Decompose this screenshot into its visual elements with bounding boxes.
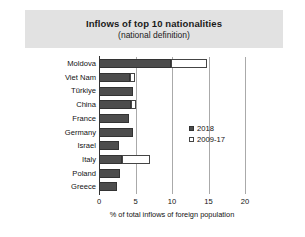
bar-segment-2018 [99,182,117,191]
chart-subtitle: (national definition) [118,30,190,40]
category-label: Viet Nam [65,71,96,85]
bar-segment-2018 [99,87,133,96]
category-label: Greece [71,180,96,194]
x-tick-label: 5 [133,197,137,206]
gridline [245,57,246,194]
bar-segment-2018 [99,155,122,164]
bar-segment-2009-17 [130,73,135,82]
legend-label-2009-17: 2009-17 [197,135,225,144]
category-label: Poland [72,167,96,181]
bar-row [99,98,245,112]
bar-segment-2009-17 [171,59,207,68]
x-axis-title: % of total inflows of foreign population [99,210,245,219]
bar-row [99,71,245,85]
category-label: France [72,112,96,126]
category-axis-labels: MoldovaViet NamTürkiyeChinaFranceGermany… [38,57,96,194]
category-label: China [76,98,96,112]
x-tick-label: 20 [241,197,249,206]
category-label: Germany [65,126,96,140]
bar-segment-2018 [99,114,129,123]
x-tick-label: 10 [168,197,176,206]
bar-row [99,57,245,71]
x-tick-label: 0 [97,197,101,206]
legend-label-2018: 2018 [197,124,214,133]
category-label: Israel [77,139,96,153]
category-label: Italy [82,153,96,167]
category-label: Türkiye [71,84,96,98]
bar-segment-2018 [99,100,131,109]
bar-segment-2018 [99,141,119,150]
bar-segment-2018 [99,128,133,137]
legend-swatch-2009-17-icon [189,137,194,142]
chart-legend: 2018 2009-17 [189,124,225,144]
bar-segment-2009-17 [122,155,150,164]
bar-row [99,167,245,181]
legend-swatch-2018-icon [189,126,194,131]
bar-row [99,153,245,167]
bar-segment-2018 [99,169,120,178]
bar-segment-2018 [99,73,130,82]
x-tick-label: 15 [204,197,212,206]
legend-item-2009-17: 2009-17 [189,135,225,144]
bar-row [99,84,245,98]
chart-title: Inflows of top 10 nationalities [86,18,222,29]
chart-figure: Inflows of top 10 nationalities (nationa… [0,0,305,237]
legend-item-2018: 2018 [189,124,225,133]
bar-row [99,180,245,194]
bar-segment-2009-17 [131,100,136,109]
chart-title-band: Inflows of top 10 nationalities (nationa… [25,10,283,48]
bar-segment-2018 [99,59,171,68]
category-label: Moldova [67,57,96,71]
